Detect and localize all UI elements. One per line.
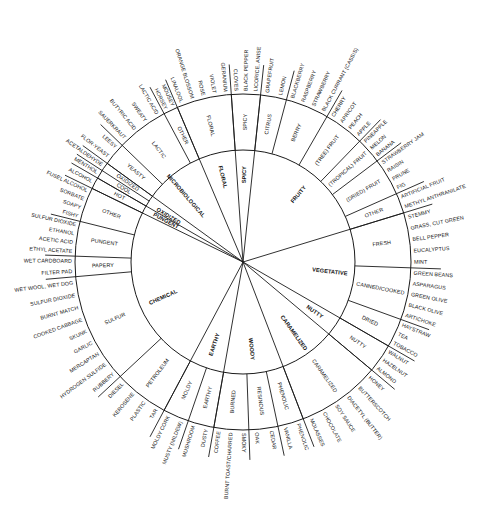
- aroma-term: CEDAR: [269, 430, 278, 450]
- subcategory-label: BURNED: [229, 390, 237, 414]
- aroma-term: PHENOLIC: [296, 423, 311, 451]
- subcategory-label: EARTHY: [202, 385, 213, 408]
- aroma-term: SWEATY: [131, 101, 149, 123]
- aroma-term: DIACETYL (BUTTER): [346, 395, 384, 441]
- aroma-term: WET WOOL, WET DOG: [14, 280, 73, 293]
- subcategory-label: OTHER: [364, 206, 384, 218]
- aroma-term: FILTER PAD: [41, 268, 72, 276]
- subcategory-label: PAPERY: [92, 262, 114, 269]
- subcategory-divider: [98, 338, 161, 397]
- subcategory-label: MOLDY: [180, 380, 193, 401]
- category-label: EARTHY: [207, 332, 220, 356]
- aroma-term: DIESEL: [107, 381, 125, 399]
- category-label: FLORAL: [217, 165, 228, 190]
- aroma-term: SKUNK: [68, 328, 88, 341]
- aroma-term: BURNT TOAST/CHARRED: [223, 432, 234, 499]
- aroma-term: PLASTIC: [129, 400, 147, 422]
- subcategory-label: BERRY: [290, 122, 303, 142]
- subcategory-divider: [355, 266, 441, 269]
- aroma-term: ETHANOL: [49, 226, 75, 236]
- subcategory-label: PHENOLIC: [276, 382, 290, 411]
- subcategory-label: PUNGENT: [91, 237, 119, 247]
- aroma-term: VANILLA: [283, 427, 294, 450]
- subcategory-label: RESINOUS: [256, 386, 266, 416]
- aroma-term: GREEN BEANS: [413, 270, 453, 279]
- aroma-term: COFFEE: [213, 430, 222, 453]
- aroma-term: LEESY: [101, 133, 118, 149]
- aroma-term: BELL PEPPER: [412, 231, 449, 242]
- aroma-term: OAK: [254, 432, 261, 444]
- aroma-term: ETHYL ACETATE: [29, 245, 73, 254]
- aroma-term: STEMMY: [407, 208, 431, 220]
- aroma-term: BLACK PEPPER: [242, 49, 249, 91]
- subcategory-label: PETROLEUM: [144, 357, 170, 388]
- category-label: CHEMICAL: [148, 288, 179, 306]
- aroma-term: CLOVES: [233, 69, 240, 92]
- aroma-wheel: SPICYSPICYCLOVESBLACK PEPPERLICORICE, AN…: [0, 0, 486, 519]
- aroma-term: SMOKY: [241, 433, 247, 453]
- aroma-term: VIOLET: [209, 74, 218, 95]
- aroma-term: SULFUR DIOXIDE: [30, 292, 76, 307]
- aroma-term: MINT: [414, 259, 428, 265]
- aroma-term: ACETIC ACID: [39, 235, 74, 245]
- aroma-term: WET CARDBOARD: [24, 257, 72, 263]
- category-label: VEGETATIVE: [312, 266, 348, 276]
- subcategory-label: OTHER: [176, 125, 190, 145]
- category-label: WOODY: [248, 338, 256, 361]
- category-label: SPICY: [241, 166, 247, 184]
- subcategory-label: SPICY: [242, 113, 248, 130]
- subcategory-label: (TREE) FRUIT: [313, 133, 340, 166]
- aroma-term: EUCALYPTUS: [413, 245, 450, 253]
- subcategory-label: OTHER: [101, 207, 121, 219]
- subcategory-divider: [345, 182, 424, 217]
- aroma-term: MUSHROOM: [181, 425, 196, 458]
- aroma-term: GERANIUM: [220, 62, 229, 92]
- aroma-term: ROSE: [197, 80, 207, 97]
- subcategory-label: DRIED: [361, 314, 379, 327]
- subcategory-label: FLORAL: [205, 115, 216, 137]
- aroma-term: LICORICE, ANISE: [252, 46, 261, 92]
- subcategory-label: CANNED/COOKED: [356, 281, 405, 296]
- subcategory-label: SULFUR: [104, 311, 127, 325]
- aroma-term: GRAPEFRUIT: [264, 57, 275, 93]
- aroma-term: DUSTY: [199, 428, 209, 448]
- subcategory-label: NUTTY: [349, 334, 368, 350]
- aroma-term: LEMON: [277, 75, 287, 95]
- category-label: NUTTY: [305, 304, 324, 320]
- aroma-term: FIG: [396, 181, 407, 190]
- aroma-term: GREEN OLIVE: [410, 291, 448, 304]
- subcategory-label: LACTIC: [151, 140, 168, 159]
- aroma-term: MOLASSES: [309, 417, 327, 447]
- subcategory-label: FRESH: [372, 239, 391, 247]
- subcategory-label: CITRUS: [263, 113, 273, 135]
- category-label: MICROBIOLOGICAL: [166, 173, 207, 219]
- category-label: FRUITY: [289, 184, 307, 204]
- aroma-term: ASPARAGUS: [412, 280, 446, 290]
- aroma-term: GARLIC: [73, 340, 94, 355]
- category-label: CARAMELIZED: [280, 314, 309, 352]
- wheel-labels: SPICYSPICYCLOVESBLACK PEPPERLICORICE, AN…: [14, 46, 467, 499]
- aroma-term: CHOCOLATE: [322, 411, 343, 444]
- aroma-term: TAR: [148, 408, 159, 420]
- subcategory-label: CARAMELIZED: [311, 358, 339, 394]
- aroma-term: TEA: [397, 331, 409, 341]
- aroma-term: HONEY: [368, 375, 387, 393]
